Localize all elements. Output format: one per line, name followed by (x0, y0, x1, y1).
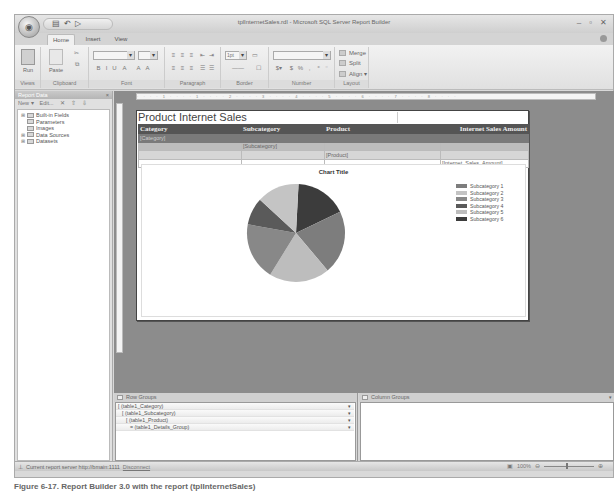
chart-title[interactable]: Chart Title (142, 169, 525, 175)
bullets-button[interactable]: ☰ (199, 65, 206, 72)
merge-button[interactable]: Merge (339, 50, 366, 56)
align-left-button[interactable]: ≡ (170, 52, 177, 59)
row-group-product[interactable]: [ (table1_Product)▾ (116, 417, 354, 424)
numbering-button[interactable]: ☰ (208, 65, 215, 72)
tab-insert[interactable]: Insert (81, 34, 105, 45)
help-icon[interactable] (600, 35, 607, 42)
border-color-button[interactable]: ▭ (251, 52, 258, 59)
fit-page-icon[interactable]: ▣ (507, 463, 513, 469)
design-surface[interactable]: · · · · 1 · · · · 1 · · · · 2 · · · · 3 … (114, 91, 614, 393)
currency-button[interactable]: $ (288, 65, 295, 72)
expand-icon[interactable]: ⊞ (20, 138, 25, 144)
cell-category[interactable]: [Category] (139, 134, 242, 143)
zoom-in-button[interactable]: ⊕ (598, 463, 603, 469)
zoom-slider[interactable] (544, 466, 594, 467)
grow-font-button[interactable]: A (135, 65, 142, 72)
dropdown-icon[interactable]: ▾ (348, 424, 351, 431)
cell-subcategory[interactable]: [Subcategory] (242, 142, 325, 151)
legend-item[interactable]: Subcategory 6 (456, 216, 503, 223)
legend-swatch (456, 191, 467, 195)
folder-icon (27, 113, 34, 118)
borders-button[interactable]: ☐ (255, 65, 262, 72)
tab-home[interactable]: Home (47, 34, 75, 45)
run-button[interactable]: Run (17, 49, 39, 73)
font-name-combo[interactable] (93, 51, 135, 60)
indent-button[interactable]: ⇥ (208, 52, 215, 59)
legend-swatch (456, 197, 467, 201)
table-cell[interactable] (441, 134, 529, 143)
pie-chart[interactable]: Chart Title Subcategory 1Subcategory 2Su… (141, 164, 526, 317)
report-body[interactable]: Product Internet Sales Category Subcateg… (136, 110, 529, 321)
font-size-combo[interactable] (138, 51, 158, 60)
header-subcategory[interactable]: Subcategory (242, 125, 325, 134)
move-down-icon[interactable]: ⇩ (82, 99, 87, 108)
table-cell[interactable] (242, 134, 325, 143)
border-width-combo[interactable]: 1pt (225, 51, 247, 60)
tablix[interactable]: Category Subcategory Product Internet Sa… (138, 124, 529, 168)
decrease-decimal-button[interactable]: ⁻ (323, 65, 330, 72)
edit-button[interactable]: Edit... (40, 99, 54, 108)
application-button[interactable]: ◉ (18, 16, 40, 38)
comma-button[interactable]: , (306, 65, 313, 72)
header-internet-sales-amount[interactable]: Internet Sales Amount (441, 125, 529, 134)
align-button[interactable]: Align ▾ (339, 70, 367, 77)
row-group-details[interactable]: = (table1_Details_Group)▾ (116, 424, 354, 431)
align-center-button[interactable]: ≡ (179, 52, 186, 59)
report-title-textbox[interactable]: Product Internet Sales (138, 112, 398, 123)
header-product[interactable]: Product (325, 125, 441, 134)
copy-icon[interactable]: ⧉ (73, 61, 80, 68)
folder-icon (27, 139, 34, 144)
paste-button[interactable]: Paste (45, 49, 67, 73)
percent-button[interactable]: % (297, 65, 304, 72)
table-cell[interactable] (139, 151, 242, 160)
close-icon[interactable]: × (106, 91, 109, 99)
border-style-button[interactable]: —— (226, 65, 250, 72)
split-button[interactable]: Split (339, 60, 361, 66)
cut-icon[interactable]: ✂ (73, 50, 80, 57)
align-top-button[interactable]: ≡ (170, 65, 177, 72)
grouping-pane: Row Groups [ (table1_Category)▾ [ (table… (114, 393, 614, 461)
align-bottom-button[interactable]: ≡ (188, 65, 195, 72)
table-cell[interactable] (325, 134, 441, 143)
dropdown-icon[interactable]: ▾ (348, 403, 351, 410)
chart-legend[interactable]: Subcategory 1Subcategory 2Subcategory 3S… (456, 183, 503, 222)
maximize-button[interactable]: ▫ (589, 18, 592, 27)
legend-label: Subcategory 6 (470, 216, 503, 222)
disconnect-link[interactable]: Disconnect (123, 463, 150, 471)
header-category[interactable]: Category (139, 125, 242, 134)
legend-label: Subcategory 4 (470, 203, 503, 209)
italic-button[interactable]: I (103, 65, 110, 72)
increase-decimal-button[interactable]: ⁺ (315, 65, 322, 72)
dropdown-icon[interactable]: ▾ (348, 417, 351, 424)
bold-button[interactable]: B (95, 65, 102, 72)
align-middle-button[interactable]: ≡ (179, 65, 186, 72)
move-up-icon[interactable]: ⇧ (71, 99, 76, 108)
row-group-category[interactable]: [ (table1_Category)▾ (116, 403, 354, 410)
tree-item-datasets[interactable]: ⊞Datasets (20, 138, 107, 145)
dropdown-icon[interactable]: ▾ (609, 393, 612, 402)
underline-button[interactable]: U (111, 65, 118, 72)
table-cell[interactable] (441, 142, 529, 151)
table-cell[interactable] (139, 142, 242, 151)
close-button[interactable]: ✕ (600, 18, 607, 27)
table-cell[interactable] (441, 151, 529, 160)
placeholder-styles-button[interactable]: $▾ (274, 65, 284, 72)
outdent-button[interactable]: ⇤ (199, 52, 206, 59)
tab-view[interactable]: View (111, 34, 131, 45)
shrink-font-button[interactable]: A (144, 65, 151, 72)
dropdown-icon[interactable]: ▾ (348, 410, 351, 417)
cell-product[interactable]: [Product] (325, 151, 441, 160)
table-cell[interactable] (325, 142, 441, 151)
table-header-row: Category Subcategory Product Internet Sa… (139, 125, 529, 134)
new-button[interactable]: New ▾ (18, 99, 34, 108)
minimize-button[interactable]: – (577, 18, 581, 27)
zoom-out-button[interactable]: ⊖ (535, 463, 540, 469)
align-right-button[interactable]: ≡ (188, 52, 195, 59)
number-format-combo[interactable] (273, 51, 331, 60)
delete-icon[interactable]: ✕ (60, 99, 65, 108)
row-group-subcategory[interactable]: [ (table1_Subcategory)▾ (116, 410, 354, 417)
font-color-button[interactable]: A (121, 65, 128, 72)
expand-icon[interactable]: ⊞ (20, 132, 25, 138)
table-cell[interactable] (242, 151, 325, 160)
expand-icon[interactable]: ⊞ (20, 112, 25, 118)
